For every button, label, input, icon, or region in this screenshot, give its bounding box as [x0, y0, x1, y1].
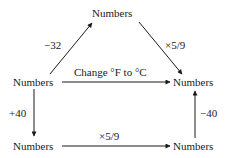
conversion-diagram: Numbers Numbers Numbers Numbers Numbers … — [0, 0, 229, 158]
label-minus-32: −32 — [44, 40, 61, 51]
label-times-5-9-top: ×5/9 — [165, 40, 185, 51]
node-bottom-left: Numbers — [13, 141, 53, 152]
node-mid-left: Numbers — [13, 77, 53, 88]
node-bottom-right: Numbers — [173, 141, 213, 152]
node-top: Numbers — [92, 8, 132, 19]
label-plus-40: +40 — [9, 108, 26, 119]
label-change-f-to-c: Change °F to °C — [74, 67, 147, 78]
label-times-5-9-bottom: ×5/9 — [99, 131, 119, 142]
node-mid-right: Numbers — [173, 77, 213, 88]
label-minus-40: −40 — [200, 108, 217, 119]
